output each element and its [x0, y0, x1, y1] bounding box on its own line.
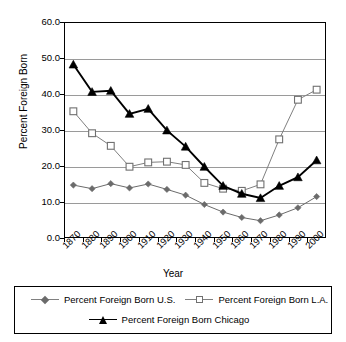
x-axis-title: Year: [0, 268, 346, 279]
y-axis-tick-label: 50.0: [24, 53, 60, 63]
y-axis-tick-label: 0.0: [24, 233, 60, 243]
data-point-marker: [144, 105, 153, 113]
data-point-marker: [182, 162, 189, 169]
y-axis-tick-label: 20.0: [24, 161, 60, 171]
data-point-marker: [257, 218, 263, 224]
legend-diamond-icon: [31, 294, 59, 305]
legend-item[interactable]: Percent Foreign Born Chicago: [89, 314, 250, 325]
y-axis-tick-mark: [60, 94, 64, 95]
y-axis-tick-label: 10.0: [24, 197, 60, 207]
y-axis-tick-mark: [60, 202, 64, 203]
data-point-marker: [295, 205, 301, 211]
legend-marker: [196, 296, 203, 303]
chart-legend: Percent Foreign Born U.S.Percent Foreign…: [14, 286, 332, 334]
data-point-marker: [126, 185, 132, 191]
legend-item-label: Percent Foreign Born L.A.: [218, 294, 328, 305]
y-axis-tick-mark: [60, 166, 64, 167]
legend-item-label: Percent Foreign Born U.S.: [64, 294, 175, 305]
y-axis-tick-mark: [60, 22, 64, 23]
series-line: [73, 64, 316, 198]
data-point-marker: [164, 186, 170, 192]
series-2: [70, 86, 320, 194]
legend-item[interactable]: Percent Foreign Born L.A.: [185, 294, 328, 305]
data-point-marker: [89, 130, 96, 137]
data-point-marker: [145, 181, 151, 187]
y-axis-tick-mark: [60, 130, 64, 131]
data-point-marker: [107, 142, 114, 149]
data-point-marker: [257, 181, 264, 188]
data-point-marker: [89, 186, 95, 192]
data-point-marker: [70, 182, 76, 188]
legend-triangle-icon: [89, 314, 117, 325]
data-point-marker: [239, 214, 245, 220]
data-point-marker: [295, 96, 302, 103]
data-point-marker: [201, 201, 207, 207]
chart-plot-region: Percent Foreign Born 0.010.020.030.040.0…: [0, 0, 346, 285]
data-point-marker: [183, 192, 189, 198]
data-point-marker: [314, 194, 320, 200]
legend-item[interactable]: Percent Foreign Born U.S.: [31, 294, 175, 305]
y-axis-tick-labels: 0.010.020.030.040.050.060.0: [20, 0, 60, 285]
y-axis-tick-mark: [60, 58, 64, 59]
legend-marker: [41, 295, 49, 303]
y-axis-tick-label: 30.0: [24, 125, 60, 135]
series-canvas: [64, 22, 326, 238]
data-point-marker: [313, 86, 320, 93]
data-point-marker: [164, 158, 171, 165]
data-point-marker: [276, 136, 283, 143]
data-point-marker: [312, 156, 321, 164]
chart-figure: Percent Foreign Born 0.010.020.030.040.0…: [0, 0, 346, 342]
data-point-marker: [69, 60, 78, 68]
legend-marker: [99, 316, 107, 324]
legend-square-icon: [185, 294, 213, 305]
legend-row-secondary: Percent Foreign Born Chicago: [15, 314, 333, 325]
legend-row-primary: Percent Foreign Born U.S.Percent Foreign…: [15, 294, 346, 305]
data-point-marker: [108, 181, 114, 187]
data-point-marker: [145, 159, 152, 166]
data-point-marker: [126, 163, 133, 170]
data-point-marker: [220, 209, 226, 215]
y-axis-tick-label: 60.0: [24, 17, 60, 27]
data-point-marker: [276, 212, 282, 218]
data-point-marker: [70, 108, 77, 115]
y-axis-tick-label: 40.0: [24, 89, 60, 99]
y-axis-tick-mark: [60, 238, 64, 239]
data-point-marker: [275, 182, 284, 190]
legend-item-label: Percent Foreign Born Chicago: [122, 314, 250, 325]
data-point-marker: [201, 180, 208, 187]
